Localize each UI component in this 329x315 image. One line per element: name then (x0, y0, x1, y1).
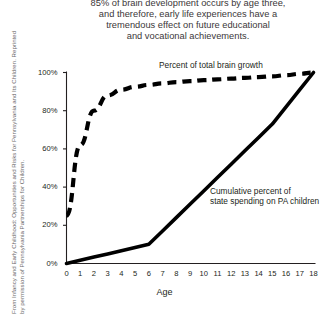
x-axis-tick-label: 9 (183, 269, 197, 278)
x-axis-tick-label: 0 (60, 269, 74, 278)
series-annotation-state-spending: Cumulative percent of state spending on … (210, 186, 319, 206)
x-axis-tick-label: 4 (114, 269, 128, 278)
x-axis-tick-label: 6 (142, 269, 156, 278)
chart-series (67, 73, 314, 264)
x-axis-tick-label: 7 (156, 269, 170, 278)
y-axis-tick-label: 80% (28, 106, 58, 115)
x-axis-tick-label: 14 (252, 269, 266, 278)
y-axis-tick-label: 0% (28, 259, 58, 268)
y-axis-tick-label: 100% (28, 68, 58, 77)
x-axis-tick-label: 15 (265, 269, 279, 278)
x-axis-tick-label: 17 (293, 269, 307, 278)
x-axis-tick-label: 5 (128, 269, 142, 278)
x-axis-tick-label: 16 (279, 269, 293, 278)
series-annotation-state-spending-line-2: state spending on PA children (210, 196, 319, 206)
x-axis-tick-label: 13 (238, 269, 252, 278)
series-annotation-state-spending-line-1: Cumulative percent of (210, 186, 319, 196)
x-axis-tick-label: 12 (224, 269, 238, 278)
x-axis-tick-label: 10 (197, 269, 211, 278)
x-axis-tick-label: 3 (101, 269, 115, 278)
x-axis-tick-label: 1 (73, 269, 87, 278)
y-axis-tick-label: 20% (28, 220, 58, 229)
x-axis-title: Age (0, 287, 329, 297)
series-annotation-brain-growth: Percent of total brain growth (159, 60, 263, 70)
y-axis-tick-label: 40% (28, 182, 58, 191)
x-axis-tick-label: 8 (169, 269, 183, 278)
y-axis-tick-label: 60% (28, 144, 58, 153)
x-axis-tick-label: 18 (307, 269, 321, 278)
brain-growth-chart: 0%20%40%60%80%100% 012345678910111213141… (0, 0, 329, 315)
x-axis-tick-label: 2 (87, 269, 101, 278)
x-axis-tick-label: 11 (210, 269, 224, 278)
